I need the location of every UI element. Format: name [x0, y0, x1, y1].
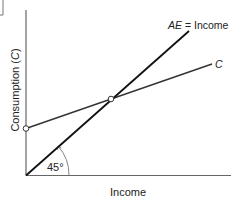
angle-label: 45°: [47, 161, 64, 173]
autonomous-consumption-point: [23, 126, 29, 132]
equilibrium-point: [108, 96, 114, 102]
y-label-var: C: [9, 52, 21, 60]
y-label-suffix: ): [9, 48, 21, 52]
consumption-label: C: [215, 58, 223, 70]
ae-income-line: [26, 31, 189, 176]
x-axis-label: Income: [110, 186, 146, 198]
y-axis-label: Consumption (C): [9, 48, 21, 131]
frame-edge: [0, 0, 3, 15]
ae-income-label: AE = Income: [167, 19, 229, 31]
keynesian-cross-diagram: 45° AE = Income C Income Consumption (C): [0, 0, 231, 200]
ae-var: AE: [167, 19, 183, 31]
y-label-prefix: Consumption (: [9, 60, 21, 132]
ae-rest: = Income: [182, 19, 229, 31]
consumption-line: [26, 64, 212, 129]
